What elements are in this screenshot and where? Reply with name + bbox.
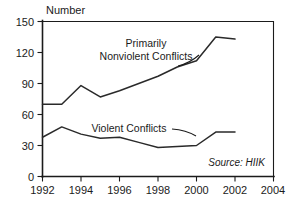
violent-label-leader-line (172, 129, 196, 136)
x-tick-label: 1996 (107, 184, 131, 196)
series-label-violent: Violent Conflicts (91, 122, 166, 134)
x-tick-label: 1992 (30, 184, 54, 196)
source-note: Source: HIIK (208, 157, 266, 168)
series-label-nonviolent-line2: Nonviolent Conflicts (100, 50, 193, 62)
line-chart: 0 30 60 90 120 150 1992 1994 1996 1998 2… (0, 0, 297, 203)
y-tick-label: 60 (22, 109, 34, 121)
y-tick-label: 90 (22, 78, 34, 90)
y-axis-title: Number (46, 4, 85, 16)
x-tick-label: 2002 (223, 184, 247, 196)
series-label-nonviolent-line1: Primarily (126, 37, 168, 49)
x-tick-label: 1998 (146, 184, 170, 196)
y-tick-label: 0 (28, 171, 34, 183)
y-tick-labels: 0 30 60 90 120 150 (16, 16, 34, 183)
x-tick-label: 2004 (261, 184, 285, 196)
y-tick-label: 30 (22, 140, 34, 152)
y-tick-label: 120 (16, 47, 34, 59)
x-tick-label: 2000 (184, 184, 208, 196)
chart-figure: 0 30 60 90 120 150 1992 1994 1996 1998 2… (0, 0, 297, 203)
y-tick-label: 150 (16, 16, 34, 28)
series-label-nonviolent: Primarily Nonviolent Conflicts (100, 37, 193, 62)
x-tick-labels: 1992 1994 1996 1998 2000 2002 2004 (30, 184, 285, 196)
x-tick-label: 1994 (69, 184, 93, 196)
